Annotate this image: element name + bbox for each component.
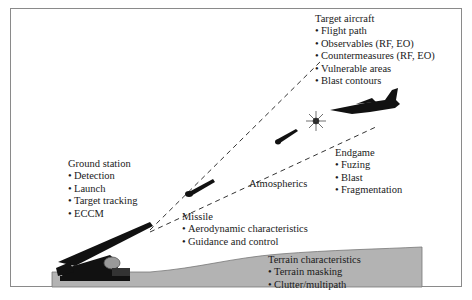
jet-aircraft-icon [330,88,400,114]
list-item: Aerodynamic characteristics [182,223,308,235]
explosion-icon [306,111,326,131]
target-aircraft-block: Target aircraft Flight path Observables … [315,13,435,87]
list-item: Guidance and control [182,236,308,248]
ground-station-block: Ground station Detection Launch Target t… [68,158,138,220]
upper-sight-line [150,60,322,230]
list-item: Launch [68,183,138,195]
list-item: Flight path [315,25,435,37]
list-item: Fragmentation [335,184,402,196]
ground-station-title: Ground station [68,158,138,170]
terrain-title: Terrain characteristics [268,254,361,266]
list-item: Observables (RF, EO) [315,38,435,50]
missile-block: Missile Aerodynamic characteristics Guid… [182,211,308,248]
list-item: Blast contours [315,75,435,87]
list-item: Vulnerable areas [315,63,435,75]
endgame-title: Endgame [335,147,402,159]
atmospherics-label: Atmospherics [249,178,307,189]
list-item: Fuzing [335,159,402,171]
endgame-block: Endgame Fuzing Blast Fragmentation [335,147,402,197]
missile-icon [275,129,298,144]
list-item: Countermeasures (RF, EO) [315,50,435,62]
list-item: Detection [68,170,138,182]
list-item: Clutter/multipath [268,279,361,291]
list-item: ECCM [68,208,138,220]
list-item: Terrain masking [268,266,361,278]
missile-icon [185,179,215,197]
terrain-block: Terrain characteristics Terrain masking … [268,254,361,291]
list-item: Target tracking [68,195,138,207]
list-item: Blast [335,172,402,184]
missile-title: Missile [182,211,308,223]
target-aircraft-title: Target aircraft [315,13,435,25]
